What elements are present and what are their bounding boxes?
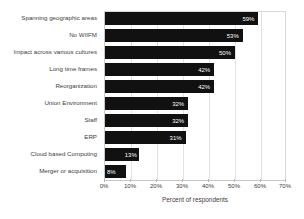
bar-row: 50% bbox=[105, 46, 235, 59]
bar[interactable]: 13% bbox=[105, 148, 139, 161]
x-tick-label: 60% bbox=[254, 183, 266, 190]
bar-row: 42% bbox=[105, 80, 214, 93]
x-tick-mark bbox=[156, 179, 157, 182]
category-label: ERP bbox=[0, 133, 101, 140]
bar[interactable]: 32% bbox=[105, 114, 188, 127]
category-label: Union Environment bbox=[0, 99, 101, 106]
bar[interactable]: 8% bbox=[105, 165, 126, 178]
category-label: Merger or acquisition bbox=[0, 167, 101, 174]
bar-row: 32% bbox=[105, 114, 188, 127]
bar-value-label: 8% bbox=[105, 169, 116, 175]
bar-value-label: 32% bbox=[172, 101, 188, 107]
bar-value-label: 31% bbox=[170, 135, 186, 141]
x-axis-title: Percent of respondents bbox=[104, 196, 286, 204]
bar-row: 59% bbox=[105, 12, 258, 25]
bar-row: 53% bbox=[105, 29, 243, 42]
category-label: Cloud based Computing bbox=[0, 150, 101, 157]
x-tick-mark bbox=[104, 179, 105, 182]
x-tick-mark bbox=[285, 179, 286, 182]
x-tick-mark bbox=[208, 179, 209, 182]
bar-value-label: 13% bbox=[125, 152, 139, 158]
x-tick-mark bbox=[182, 179, 183, 182]
x-tick-mark bbox=[260, 179, 261, 182]
category-label: Staff bbox=[0, 116, 101, 123]
bar-value-label: 59% bbox=[242, 16, 258, 22]
bar-chart: Spanning geographic areas No WIIFM Impac… bbox=[0, 0, 304, 219]
x-axis-ticks: 0% 10% 20% 30% 40% 50% 60% 70% bbox=[104, 183, 286, 193]
bar[interactable]: 42% bbox=[105, 63, 214, 76]
bar-value-label: 53% bbox=[227, 33, 243, 39]
x-tick-label: 40% bbox=[202, 183, 214, 190]
x-tick-label: 0% bbox=[100, 183, 109, 190]
bar-row: 32% bbox=[105, 97, 188, 110]
bar[interactable]: 42% bbox=[105, 80, 214, 93]
x-tick-label: 70% bbox=[279, 183, 291, 190]
x-tick-mark bbox=[130, 179, 131, 182]
bar-row: 42% bbox=[105, 63, 214, 76]
category-label: No WIIFM bbox=[0, 31, 101, 38]
x-tick-label: 20% bbox=[150, 183, 162, 190]
bar-row: 31% bbox=[105, 131, 186, 144]
bar[interactable]: 53% bbox=[105, 29, 243, 42]
x-tick-label: 30% bbox=[176, 183, 188, 190]
bar-row: 8% bbox=[105, 165, 126, 178]
category-label: Reorganization bbox=[0, 82, 101, 89]
x-tick-label: 50% bbox=[228, 183, 240, 190]
bar-value-label: 42% bbox=[198, 67, 214, 73]
category-label: Impact across various cultures bbox=[0, 48, 101, 55]
plot-area: 59% 53% 50% 42% 42% bbox=[104, 11, 286, 181]
category-label: Long time frames bbox=[0, 65, 101, 72]
bar[interactable]: 31% bbox=[105, 131, 186, 144]
bar-value-label: 32% bbox=[172, 118, 188, 124]
bar-row: 13% bbox=[105, 148, 139, 161]
category-axis-labels: Spanning geographic areas No WIIFM Impac… bbox=[0, 11, 101, 181]
bar-value-label: 42% bbox=[198, 84, 214, 90]
category-label: Spanning geographic areas bbox=[0, 14, 101, 21]
bar[interactable]: 32% bbox=[105, 97, 188, 110]
x-tick-label: 10% bbox=[124, 183, 136, 190]
bar[interactable]: 59% bbox=[105, 12, 258, 25]
x-tick-mark bbox=[234, 179, 235, 182]
bar[interactable]: 50% bbox=[105, 46, 235, 59]
bar-value-label: 50% bbox=[219, 50, 235, 56]
bars-layer: 59% 53% 50% 42% 42% bbox=[105, 12, 285, 180]
